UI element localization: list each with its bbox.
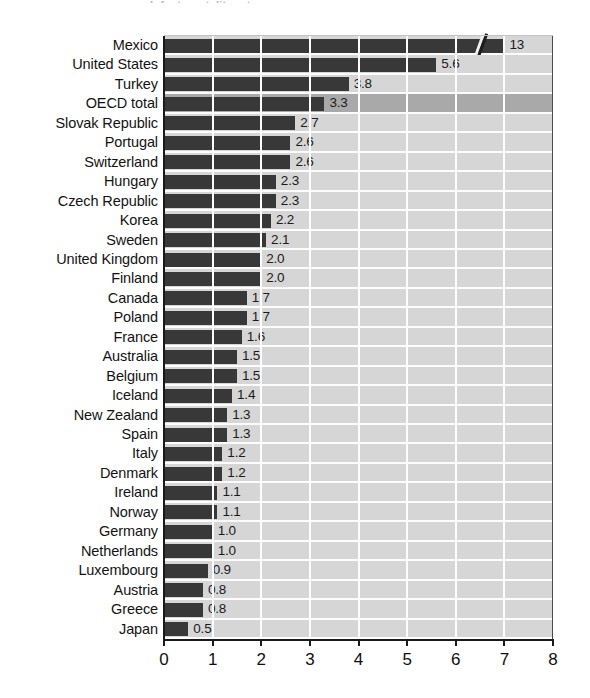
- bar[interactable]: [164, 58, 436, 72]
- x-tick-5: [406, 639, 408, 646]
- gridline-x-7: [503, 36, 505, 639]
- category-label: Finland: [0, 269, 158, 288]
- category-label: Italy: [0, 444, 158, 463]
- bar-value-label: 3.3: [329, 95, 347, 111]
- category-label: Hungary: [0, 172, 158, 191]
- bar[interactable]: [164, 311, 247, 325]
- category-label: Canada: [0, 289, 158, 308]
- bar[interactable]: [164, 97, 324, 111]
- plot-right-edge: [552, 36, 553, 641]
- category-label: Belgium: [0, 367, 158, 386]
- bar[interactable]: [164, 486, 217, 500]
- bar-value-label: 2.2: [276, 212, 294, 228]
- x-tick-label-1: 1: [208, 650, 217, 670]
- category-label: Norway: [0, 503, 158, 522]
- bar[interactable]: [164, 428, 227, 442]
- category-label: Mexico: [0, 36, 158, 55]
- bar-value-label: 1.0: [218, 523, 236, 539]
- bar-value-label: 0.5: [193, 621, 211, 637]
- bar-value-label: 2.0: [266, 251, 284, 267]
- bar-value-label: 1.2: [227, 465, 245, 481]
- bar-value-label: 1.2: [227, 445, 245, 461]
- gridline-x-3: [309, 36, 311, 639]
- x-tick-2: [260, 639, 262, 646]
- plot-area: 135.63.83.32.72.62.62.32.32.22.12.02.01.…: [164, 36, 553, 639]
- x-tick-3: [309, 639, 311, 646]
- bar-value-label: 1.3: [232, 426, 250, 442]
- category-label: United States: [0, 55, 158, 74]
- bar[interactable]: [164, 330, 242, 344]
- bar[interactable]: [164, 583, 203, 597]
- x-tick-4: [358, 639, 360, 646]
- gridline-x-4: [358, 36, 360, 639]
- category-label: New Zealand: [0, 406, 158, 425]
- bar[interactable]: [164, 77, 349, 91]
- bar[interactable]: [164, 564, 208, 578]
- category-label: Turkey: [0, 75, 158, 94]
- x-tick-label-2: 2: [257, 650, 266, 670]
- bar[interactable]: [164, 603, 203, 617]
- category-label: OECD total: [0, 94, 158, 113]
- category-label: Poland: [0, 308, 158, 327]
- bar[interactable]: [164, 544, 213, 558]
- category-label: Spain: [0, 425, 158, 444]
- category-label: Iceland: [0, 386, 158, 405]
- category-label: Slovak Republic: [0, 114, 158, 133]
- bar[interactable]: [164, 175, 276, 189]
- x-tick-label-7: 7: [500, 650, 509, 670]
- bar[interactable]: [164, 389, 232, 403]
- gridline-x-6: [455, 36, 457, 639]
- category-label: Germany: [0, 522, 158, 541]
- bar[interactable]: [164, 505, 217, 519]
- bar[interactable]: [164, 350, 237, 364]
- bar-value-label: 2.1: [271, 232, 289, 248]
- bar[interactable]: [164, 214, 271, 228]
- x-tick-1: [212, 639, 214, 646]
- plot-top-edge: [164, 35, 553, 36]
- x-tick-8: [552, 639, 554, 646]
- gridline-x-5: [406, 36, 408, 639]
- category-label: Australia: [0, 347, 158, 366]
- bar-value-label: 1.4: [237, 387, 255, 403]
- category-label: Netherlands: [0, 542, 158, 561]
- bar-value-label: 0.9: [213, 562, 231, 578]
- x-tick-7: [503, 639, 505, 646]
- bar-chart-figure: Infant mortality rates 135.63.83.32.72.6…: [0, 0, 590, 698]
- bar[interactable]: [164, 525, 213, 539]
- bar[interactable]: [164, 408, 227, 422]
- category-axis-labels: MexicoUnited StatesTurkeyOECD totalSlova…: [0, 36, 158, 639]
- category-label: Portugal: [0, 133, 158, 152]
- x-tick-label-8: 8: [548, 650, 557, 670]
- bar-value-label: 13: [509, 37, 524, 53]
- category-label: Sweden: [0, 231, 158, 250]
- x-tick-label-6: 6: [451, 650, 460, 670]
- category-label: Czech Republic: [0, 192, 158, 211]
- category-label: Greece: [0, 600, 158, 619]
- bar[interactable]: [164, 291, 247, 305]
- bar-value-label: 1.1: [222, 504, 240, 520]
- x-tick-0: [163, 639, 165, 646]
- bar[interactable]: [164, 116, 295, 130]
- category-label: Austria: [0, 581, 158, 600]
- bar[interactable]: [164, 136, 290, 150]
- bar-value-label: 1.0: [218, 543, 236, 559]
- category-label: France: [0, 328, 158, 347]
- x-tick-6: [455, 639, 457, 646]
- gridline-x-1: [212, 36, 214, 639]
- bar[interactable]: [164, 39, 504, 53]
- bar[interactable]: [164, 194, 276, 208]
- y-axis-line: [163, 36, 165, 641]
- category-label: Ireland: [0, 483, 158, 502]
- bar[interactable]: [164, 233, 266, 247]
- chart-title-remnant: Infant mortality rates: [150, 0, 450, 3]
- bar[interactable]: [164, 622, 188, 636]
- bar-value-label: 2.0: [266, 270, 284, 286]
- bar[interactable]: [164, 155, 290, 169]
- x-tick-label-4: 4: [354, 650, 363, 670]
- bar-value-label: 0.8: [208, 582, 226, 598]
- bar-value-label: 2.3: [281, 193, 299, 209]
- bar-value-label: 1.5: [242, 348, 260, 364]
- bar[interactable]: [164, 369, 237, 383]
- bar-value-label: 0.8: [208, 601, 226, 617]
- category-label: Denmark: [0, 464, 158, 483]
